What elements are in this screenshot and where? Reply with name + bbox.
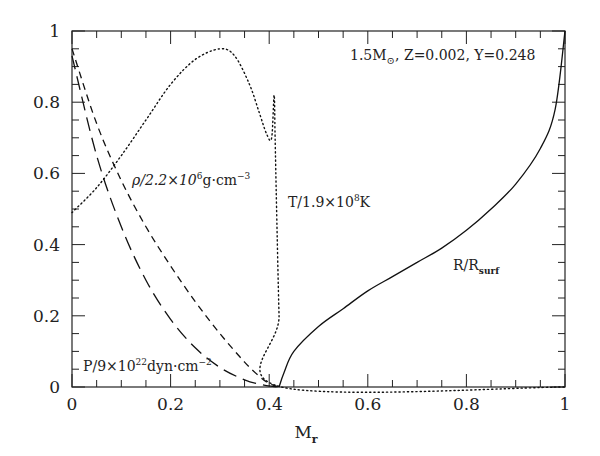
- y-tick-label: 0: [49, 377, 60, 397]
- series-short-dashed-line: [72, 49, 279, 387]
- x-tick-label: 0.6: [354, 394, 381, 414]
- x-tick-label: 0.2: [157, 394, 184, 414]
- temperature-label: T/1.9×108K: [288, 193, 371, 210]
- series-long-dashed-line: [72, 56, 279, 387]
- model-annotation: 1.5M⊙, Z=0.002, Y=0.248: [350, 47, 535, 66]
- axis-tick-labels: 00.20.40.60.8100.20.40.60.81: [33, 21, 570, 414]
- y-tick-label: 0.4: [33, 235, 60, 255]
- x-tick-label: 0.8: [453, 394, 480, 414]
- chart: 00.20.40.60.8100.20.40.60.81 1.5M⊙, Z=0.…: [0, 0, 600, 456]
- x-axis-label: Mr: [294, 422, 317, 446]
- pressure-label: P/9×1022dyn·cm−2: [83, 357, 212, 374]
- y-tick-label: 1: [49, 21, 60, 41]
- x-tick-label: 0.4: [256, 394, 283, 414]
- radius-label: R/Rsurf: [453, 257, 500, 276]
- series-layer: [72, 31, 565, 392]
- rho-label: ρ/2.2×106g·cm−3: [131, 171, 251, 188]
- y-tick-label: 0.6: [33, 163, 60, 183]
- y-tick-label: 0.2: [33, 306, 60, 326]
- series-dotted-line: [72, 49, 565, 393]
- x-tick-label: 1: [560, 394, 571, 414]
- y-tick-label: 0.8: [33, 92, 60, 112]
- x-tick-label: 0: [67, 394, 78, 414]
